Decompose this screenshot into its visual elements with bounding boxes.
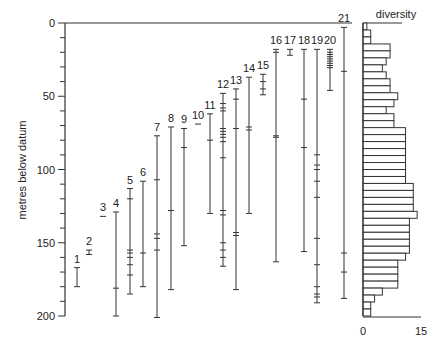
histogram-bar (363, 267, 398, 274)
column-label: 14 (243, 62, 255, 74)
histogram-bar (363, 295, 375, 302)
range-column-9: 9 (181, 113, 187, 245)
column-label: 15 (257, 59, 269, 71)
histogram-bar (363, 142, 406, 149)
histogram-bar (363, 232, 409, 239)
column-label: 9 (181, 113, 187, 125)
range-column-18: 18 (298, 34, 310, 251)
histogram-bar (363, 72, 386, 79)
histogram-x-tick-label: 0 (360, 325, 366, 337)
histogram-title: diversity (376, 8, 417, 20)
column-label: 19 (311, 34, 323, 46)
column-label: 6 (140, 166, 146, 178)
range-column-13: 13 (230, 74, 242, 290)
histogram-bar (363, 253, 406, 260)
histogram-bar (363, 281, 398, 288)
column-label: 12 (217, 78, 229, 90)
y-axis: 050100150200 (37, 17, 352, 322)
histogram-bar (363, 30, 371, 37)
y-tick-label: 50 (43, 90, 55, 102)
diversity-histogram: 015 (360, 23, 427, 337)
range-column-3: 3 (100, 201, 106, 216)
range-column-14: 14 (243, 62, 255, 213)
histogram-bar (363, 128, 406, 135)
y-tick-label: 200 (37, 310, 55, 322)
range-column-2: 2 (86, 235, 92, 254)
histogram-bar (363, 44, 390, 51)
histogram-bar (363, 51, 390, 58)
range-column-10: 10 (192, 109, 204, 124)
range-column-20: 20 (324, 34, 336, 90)
column-label: 17 (284, 34, 296, 46)
histogram-bar (363, 114, 394, 121)
histogram-bar (363, 211, 417, 218)
histogram-bar (363, 218, 409, 225)
y-tick-label: 0 (49, 17, 55, 29)
range-column-6: 6 (140, 166, 146, 286)
histogram-bar (363, 65, 382, 72)
histogram-bar (363, 156, 406, 163)
histogram-bar (363, 225, 409, 232)
range-column-17: 17 (284, 34, 296, 55)
histogram-bar (363, 246, 409, 253)
column-label: 4 (113, 197, 119, 209)
column-label: 8 (168, 112, 174, 124)
y-axis-label: metres below datum (16, 120, 28, 219)
range-column-5: 5 (127, 174, 133, 294)
histogram-x-tick-label: 15 (415, 325, 427, 337)
histogram-bar (363, 302, 371, 309)
histogram-bar (363, 274, 398, 281)
histogram-bar (363, 288, 382, 295)
column-label: 10 (192, 109, 204, 121)
column-label: 2 (86, 235, 92, 247)
range-column-4: 4 (113, 197, 119, 316)
column-label: 18 (298, 34, 310, 46)
column-label: 7 (154, 121, 160, 133)
range-column-12: 12 (217, 78, 229, 266)
column-label: 11 (204, 99, 215, 111)
column-label: 3 (100, 201, 106, 213)
histogram-bar (363, 79, 390, 86)
range-column-21: 21 (338, 12, 350, 298)
column-label: 5 (127, 174, 133, 186)
column-label: 16 (270, 34, 282, 46)
column-label: 1 (74, 253, 80, 265)
y-tick-label: 150 (37, 237, 55, 249)
chart: 050100150200 123456789101112131415161718… (0, 0, 441, 348)
histogram-bar (363, 86, 390, 93)
histogram-bar (363, 170, 406, 177)
histogram-bar (363, 260, 398, 267)
histogram-bar (363, 190, 413, 197)
range-column-16: 16 (270, 34, 282, 261)
histogram-bar (363, 135, 406, 142)
range-column-1: 1 (74, 253, 80, 287)
column-label: 21 (338, 12, 350, 24)
histogram-bar (363, 239, 409, 246)
histogram-bar (363, 183, 413, 190)
range-column-8: 8 (168, 112, 174, 290)
column-label: 13 (230, 74, 242, 86)
histogram-bar (363, 37, 371, 44)
histogram-bar (363, 58, 386, 65)
histogram-bar (363, 100, 394, 107)
y-tick-label: 100 (37, 164, 55, 176)
range-column-15: 15 (257, 59, 269, 95)
histogram-bar (363, 176, 406, 183)
histogram-bar (363, 163, 406, 170)
range-column-7: 7 (154, 121, 160, 318)
histogram-bar (363, 204, 413, 211)
range-column-11: 11 (204, 99, 215, 214)
histogram-bar (363, 93, 398, 100)
range-columns: 123456789101112131415161718192021 (74, 12, 350, 317)
histogram-bar (363, 197, 413, 204)
histogram-bar (363, 309, 371, 316)
histogram-bar (363, 121, 394, 128)
range-column-19: 19 (311, 34, 323, 302)
histogram-bar (363, 149, 406, 156)
column-label: 20 (324, 34, 336, 46)
histogram-bar (363, 107, 386, 114)
